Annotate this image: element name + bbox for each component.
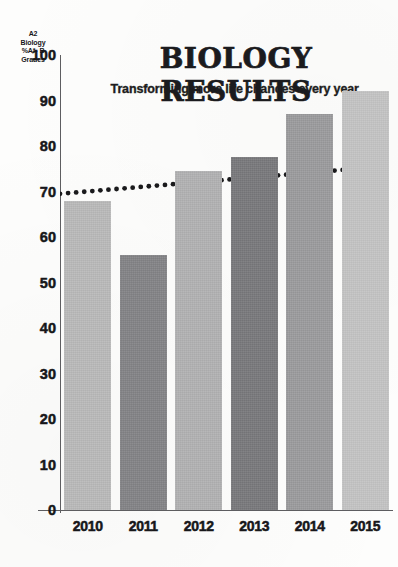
y-tick-label: 0 — [12, 502, 56, 518]
y-axis-tick-labels: 0102030405060708090100 — [0, 0, 56, 567]
bar-fill — [342, 91, 389, 510]
x-tick-label: 2015 — [336, 518, 395, 534]
y-tick-label: 100 — [12, 47, 56, 63]
trendline-dot — [155, 183, 160, 188]
y-tick-label: 90 — [12, 93, 56, 109]
trendline-dot — [74, 190, 79, 195]
y-tick-label: 70 — [12, 184, 56, 200]
bar — [342, 91, 389, 510]
y-tick-label: 50 — [12, 275, 56, 291]
y-tick-label: 30 — [12, 366, 56, 382]
bar — [175, 171, 222, 510]
x-tick-label: 2011 — [114, 518, 173, 534]
x-tick-label: 2012 — [169, 518, 228, 534]
trendline-dot — [106, 187, 111, 192]
y-tick-label: 40 — [12, 320, 56, 336]
trendline-dot — [66, 191, 71, 196]
y-tick-label: 10 — [12, 457, 56, 473]
trendline-dot — [122, 186, 127, 191]
y-tick-label: 60 — [12, 229, 56, 245]
plot-area — [60, 55, 393, 510]
bar-fill — [231, 157, 278, 510]
trendline-dot — [98, 188, 103, 193]
bar — [286, 114, 333, 510]
trendline-dot — [82, 189, 87, 194]
bar — [231, 157, 278, 510]
y-tick-label: 80 — [12, 138, 56, 154]
bar-fill — [175, 171, 222, 510]
trendline-dot — [146, 184, 151, 189]
bar — [120, 255, 167, 510]
y-tick-label: 20 — [12, 411, 56, 427]
trendline-dot — [114, 187, 119, 192]
bar-fill — [286, 114, 333, 510]
x-tick-label: 2014 — [280, 518, 339, 534]
trendline-dot — [163, 183, 168, 188]
biology-results-chart: A2 Biology %A*- B Grades BIOLOGY RESULTS… — [0, 0, 398, 567]
x-tick-label: 2013 — [225, 518, 284, 534]
x-axis-line — [38, 510, 393, 511]
trendline-dot — [90, 189, 95, 194]
trendline-dot — [60, 191, 62, 196]
trendline-dot — [138, 185, 143, 190]
bar-fill — [120, 255, 167, 510]
bar — [64, 201, 111, 510]
x-tick-label: 2010 — [58, 518, 117, 534]
trendline-dot — [130, 185, 135, 190]
bar-fill — [64, 201, 111, 510]
